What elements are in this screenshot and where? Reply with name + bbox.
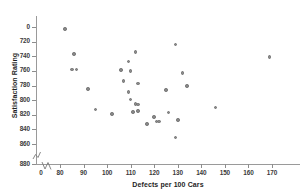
data-point xyxy=(129,98,133,102)
data-point xyxy=(167,111,171,115)
data-point xyxy=(86,87,90,91)
data-point xyxy=(145,122,149,126)
data-point xyxy=(214,106,218,110)
scatter-chart: 8808608408208007807607407200 08090100110… xyxy=(0,0,305,194)
y-axis-title: Satisfaction Rating xyxy=(11,26,18,146)
data-point xyxy=(157,120,161,124)
data-point xyxy=(119,68,123,72)
data-point xyxy=(174,43,178,47)
data-point xyxy=(181,71,185,75)
data-point xyxy=(176,118,180,122)
data-point xyxy=(72,52,76,56)
data-point xyxy=(94,108,98,112)
x-axis-title: Defects per 100 Cars xyxy=(36,181,300,188)
data-point xyxy=(136,109,140,113)
data-point xyxy=(136,82,140,86)
data-point xyxy=(136,103,140,107)
data-point xyxy=(75,68,79,72)
data-point xyxy=(129,69,133,73)
data-point xyxy=(164,88,168,92)
data-point xyxy=(134,50,138,54)
data-point xyxy=(152,115,156,119)
data-point xyxy=(174,136,178,140)
data-point xyxy=(70,68,74,72)
plot-area xyxy=(0,0,305,194)
data-point xyxy=(127,90,131,94)
data-point xyxy=(185,84,189,88)
data-point xyxy=(122,79,126,83)
data-point xyxy=(63,27,67,31)
data-point xyxy=(131,110,135,114)
data-point xyxy=(110,112,114,116)
data-point xyxy=(268,55,272,59)
data-point xyxy=(127,60,131,64)
